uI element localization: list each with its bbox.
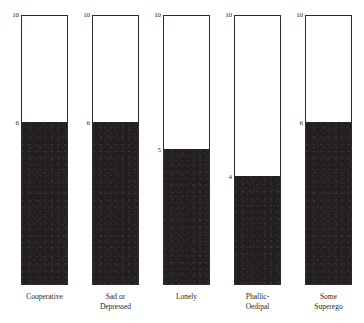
category-label: Phallic- Oedipal <box>223 292 293 311</box>
bar-frame <box>92 15 139 285</box>
bar-group: 106Sad or Depressed <box>92 0 139 323</box>
bar-chart: 106Cooperative106Sad or Depressed105Lone… <box>0 0 364 323</box>
bar-frame <box>163 15 210 285</box>
bar-frame <box>234 15 281 285</box>
bar-fill <box>93 122 138 284</box>
category-label: Cooperative <box>10 292 80 302</box>
axis-tick-top: 10 <box>148 12 161 19</box>
bar-value-tick: 6 <box>290 120 303 127</box>
axis-tick-top: 10 <box>219 12 232 19</box>
bar-frame <box>21 15 68 285</box>
category-label: Lonely <box>152 292 222 302</box>
bar-value-tick: 6 <box>6 120 19 127</box>
category-label: Sad or Depressed <box>81 292 151 311</box>
bar-fill <box>22 122 67 284</box>
bar-group: 106Some Superego <box>305 0 352 323</box>
bar-frame <box>305 15 352 285</box>
bar-fill <box>164 149 209 284</box>
bar-value-tick: 4 <box>219 174 232 181</box>
axis-tick-top: 10 <box>77 12 90 19</box>
bar-group: 106Cooperative <box>21 0 68 323</box>
bar-fill <box>306 122 351 284</box>
bar-fill <box>235 176 280 284</box>
bar-group: 104Phallic- Oedipal <box>234 0 281 323</box>
category-label: Some Superego <box>294 292 364 311</box>
bar-group: 105Lonely <box>163 0 210 323</box>
bar-value-tick: 5 <box>148 147 161 154</box>
axis-tick-top: 10 <box>290 12 303 19</box>
bar-value-tick: 6 <box>77 120 90 127</box>
axis-tick-top: 10 <box>6 12 19 19</box>
